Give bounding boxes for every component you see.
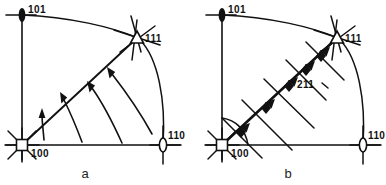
panel-b-label-110: 110 xyxy=(368,130,385,141)
panel-b-label-211: 211 xyxy=(297,79,314,90)
panel-a-arrow-2-head xyxy=(60,92,67,104)
panel-b-arc-111-110 xyxy=(340,40,364,145)
panel-a-flow-arrows xyxy=(39,67,152,143)
panel-a-pole-111-symbol xyxy=(131,31,144,43)
panel-b-pole-110-symbol xyxy=(359,138,366,152)
panel-b-label-211-tick xyxy=(322,83,328,88)
panel-b-chain-nodes xyxy=(236,47,330,138)
panel-a-arrow-3 xyxy=(92,88,122,143)
panel-a-pole-100-symbol xyxy=(17,140,28,151)
panel-a-arrow-1-head xyxy=(39,108,46,118)
panel-b-arc-101-111 xyxy=(222,15,338,38)
panel-a-pole-110-symbol xyxy=(159,138,166,152)
panel-b-label-111: 111 xyxy=(345,33,362,44)
panel-a-arrow-4 xyxy=(112,74,152,134)
panel-a-arrow-2 xyxy=(64,100,82,142)
panel-a-letter: a xyxy=(81,166,89,181)
panel-a-arc-111-110 xyxy=(140,40,164,145)
panel-a: 101 100 110 111 a xyxy=(5,4,185,181)
panel-b-label-100: 100 xyxy=(231,148,249,159)
panel-a-label-100: 100 xyxy=(31,148,49,159)
panel-a-label-110: 110 xyxy=(168,130,185,141)
panel-a-arc-101-111 xyxy=(22,15,138,38)
panel-b-pole-101-symbol xyxy=(219,8,226,22)
panel-b-pole-100-symbol xyxy=(217,140,228,151)
panel-b: 101 100 110 111 211 b xyxy=(205,4,385,181)
panel-b-node-cross-rays xyxy=(222,42,344,158)
panel-b-letter: b xyxy=(284,166,291,181)
figure-canvas: 101 100 110 111 a xyxy=(0,0,386,185)
panel-a-label-111: 111 xyxy=(145,33,162,44)
panel-a-diagonal-100-111 xyxy=(22,38,137,145)
panel-b-pole-111-symbol xyxy=(331,31,344,43)
panel-b-label-101: 101 xyxy=(228,4,246,15)
panel-a-pole-101-symbol xyxy=(19,8,26,22)
panel-a-label-101: 101 xyxy=(28,4,46,15)
